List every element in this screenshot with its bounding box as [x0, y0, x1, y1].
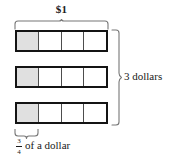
bottom-label-three-fourths-of-a-dollar: 3 4 of a dollar [16, 136, 70, 155]
top-brace-icon [14, 19, 109, 30]
bar-row-3 [15, 102, 108, 124]
bar-2-cell-1-shaded [17, 68, 39, 86]
fraction-three-fourths: 3 4 [16, 137, 22, 156]
bottom-label-text: of a dollar [25, 139, 70, 152]
top-label-one-dollar: $1 [15, 3, 108, 15]
bar-1-cell-3 [62, 32, 84, 50]
bar-2-cell-3 [62, 68, 84, 86]
fraction-divider [16, 146, 22, 147]
bar-3-cell-2 [39, 104, 61, 122]
fraction-denominator: 4 [16, 148, 22, 156]
bar-3-cell-4 [84, 104, 106, 122]
fraction-numerator: 3 [16, 137, 22, 145]
bar-row-2 [15, 66, 108, 88]
bar-1-cell-1-shaded [17, 32, 39, 50]
bar-3-cell-3 [62, 104, 84, 122]
fraction-bar-diagram: $1 3 dollars [0, 0, 170, 161]
bar-2-cell-4 [84, 68, 106, 86]
bar-3-cell-1-shaded [17, 104, 39, 122]
bar-2-cell-2 [39, 68, 61, 86]
bar-1-cell-2 [39, 32, 61, 50]
bottom-brace [14, 125, 39, 135]
right-brace-icon [111, 29, 122, 126]
right-label-three-dollars: 3 dollars [124, 70, 162, 83]
top-brace [14, 16, 109, 27]
bar-row-1 [15, 30, 108, 52]
bar-1-cell-4 [84, 32, 106, 50]
right-brace [111, 29, 122, 126]
